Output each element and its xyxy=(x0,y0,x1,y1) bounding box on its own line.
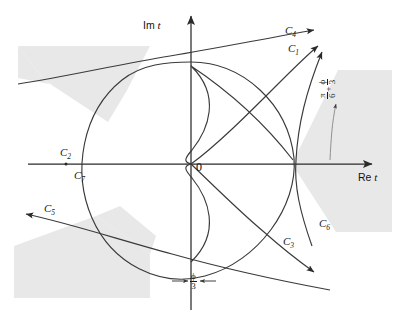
origin-label: 0 xyxy=(196,161,202,173)
offset-annotation: ϕ 3 xyxy=(190,272,197,291)
diagram-svg xyxy=(0,0,407,325)
real-axis-label: Re t xyxy=(358,172,377,183)
figure-canvas: Im t Re t 0 C4 C1 C2 C7 C5 C3 C6 π 6 + ϕ… xyxy=(0,0,407,325)
curve-label-c1: C1 xyxy=(288,43,299,57)
curve-label-c5: C5 xyxy=(44,203,55,217)
c2-point-marker xyxy=(65,163,68,166)
angle-first-fraction: π 6 xyxy=(318,92,337,99)
curve-label-c7: C7 xyxy=(74,170,85,184)
angle-plus-operator: + xyxy=(323,85,333,92)
offset-fraction: ϕ 3 xyxy=(190,272,197,291)
shade-upper-left xyxy=(18,46,150,122)
angle-annotation: π 6 + ϕ 3 xyxy=(318,79,337,99)
curve-label-c6: C6 xyxy=(319,218,330,232)
imaginary-axis-label: Im t xyxy=(143,20,161,31)
angle-second-fraction: ϕ 3 xyxy=(318,79,337,86)
curve-label-c3: C3 xyxy=(283,236,294,250)
curve-label-c4: C4 xyxy=(285,25,296,39)
curve-label-c2: C2 xyxy=(60,147,71,161)
